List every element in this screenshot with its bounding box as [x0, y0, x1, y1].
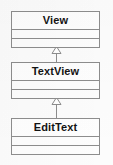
uml-class-edittext-name: EditText	[12, 119, 99, 137]
uml-class-textview-operations	[12, 90, 99, 98]
uml-class-edittext[interactable]: EditText	[11, 118, 100, 155]
uml-class-edittext-operations	[12, 146, 99, 154]
uml-class-view-operations	[12, 39, 99, 47]
uml-class-view-name: View	[12, 12, 99, 30]
uml-class-view[interactable]: View	[11, 11, 100, 48]
uml-class-edittext-attributes	[12, 137, 99, 146]
uml-class-textview-name: TextView	[12, 63, 99, 81]
uml-class-textview[interactable]: TextView	[11, 62, 100, 99]
uml-class-diagram: View TextView EditText	[0, 0, 113, 165]
uml-class-view-attributes	[12, 30, 99, 39]
uml-class-textview-attributes	[12, 81, 99, 90]
